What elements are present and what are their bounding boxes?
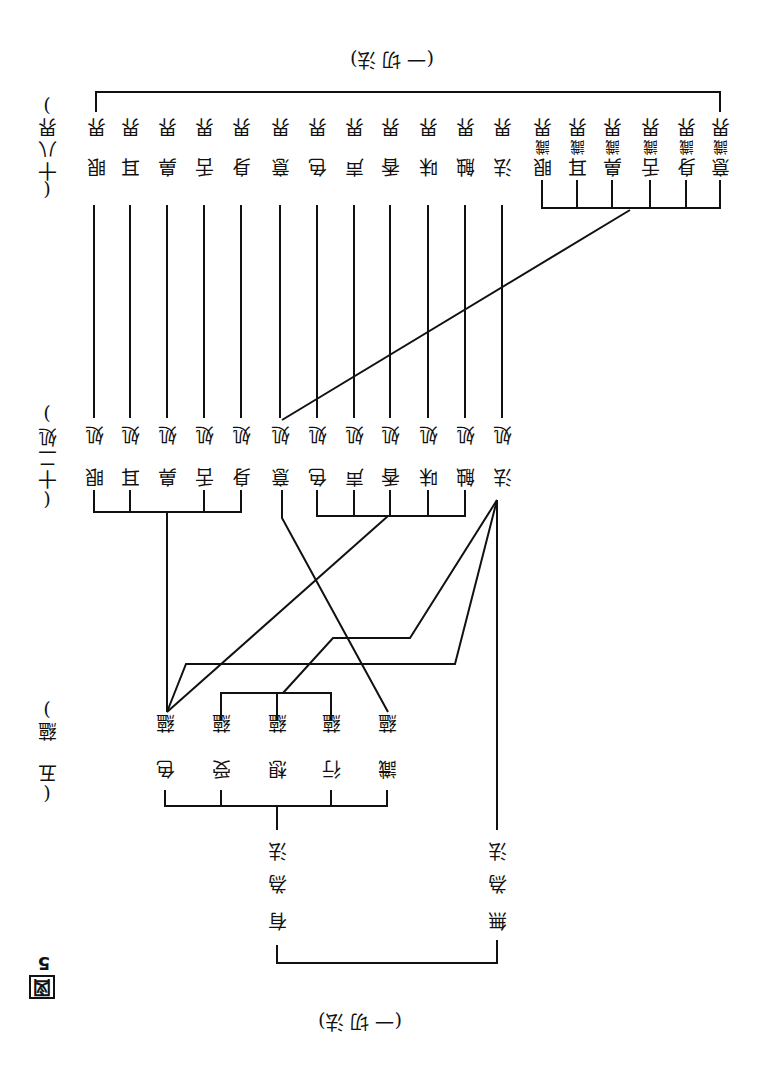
root-all-dharmas-top: (一 切 法) [350, 48, 434, 75]
figure-label: 図 [29, 975, 55, 999]
figure-number: 5 [29, 952, 59, 974]
root-all-dharmas-bottom: (一 切 法) [318, 1010, 402, 1037]
diagram-canvas: 5 図 (一 切 法) (一 切 法) 有 為 法 無 為 法 ( 五 蘊 ) … [0, 0, 771, 1075]
